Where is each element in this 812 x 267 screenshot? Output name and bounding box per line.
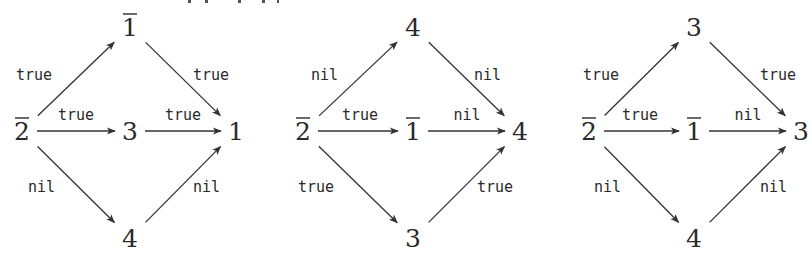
edge-label: true: [16, 66, 52, 84]
node-sink: 1: [228, 117, 244, 146]
node-src: 2: [14, 117, 30, 146]
node-src: 2: [581, 117, 597, 146]
node-mid: 1: [405, 117, 421, 146]
node-src: 2: [295, 117, 311, 146]
node-bot: 4: [122, 224, 138, 253]
node-sink: 4: [512, 117, 528, 146]
node-label: 4: [512, 117, 528, 146]
node-label: 1: [122, 13, 138, 42]
edge-label: true: [342, 106, 378, 124]
edge-label: true: [298, 178, 334, 196]
diagram-left: truetrueniltruetruenil21341: [14, 13, 244, 253]
diagram-right: truetrueniltruenilnil23143: [581, 13, 809, 253]
node-label: 1: [686, 117, 702, 146]
node-label: 3: [405, 224, 421, 253]
node-top: 4: [405, 13, 421, 42]
diagrams-layer: truetrueniltruetruenil21341niltruetrueni…: [14, 13, 809, 253]
node-bot: 3: [405, 224, 421, 253]
edge-label: nil: [193, 178, 220, 196]
edge-label: nil: [594, 178, 621, 196]
edge-label: true: [760, 66, 796, 84]
edge-label: nil: [474, 66, 501, 84]
edge-label: true: [193, 66, 229, 84]
edge-label: true: [165, 106, 201, 124]
node-top: 3: [686, 13, 702, 42]
node-bot: 4: [686, 224, 702, 253]
edge-label: true: [622, 106, 658, 124]
diagram-canvas: truetrueniltruetruenil21341niltruetrueni…: [0, 0, 812, 267]
node-mid: 1: [686, 117, 702, 146]
edge-label: nil: [453, 106, 480, 124]
node-label: 4: [122, 224, 138, 253]
edge-label: nil: [28, 178, 55, 196]
node-label: 3: [122, 117, 138, 146]
node-top: 1: [122, 13, 138, 42]
edge-label: nil: [760, 178, 787, 196]
node-label: 4: [686, 224, 702, 253]
node-label: 3: [793, 117, 809, 146]
node-label: 2: [295, 117, 311, 146]
node-label: 4: [405, 13, 421, 42]
node-label: 1: [405, 117, 421, 146]
node-mid: 3: [122, 117, 138, 146]
edge-label: nil: [734, 106, 761, 124]
cropped-text-fragment: [188, 0, 279, 3]
edge-label: true: [58, 106, 94, 124]
edge-label: true: [583, 66, 619, 84]
edge-label: true: [477, 178, 513, 196]
node-label: 3: [686, 13, 702, 42]
node-label: 1: [228, 117, 244, 146]
diagram-middle: niltruetruenilniltrue24134: [295, 13, 528, 253]
node-label: 2: [14, 117, 30, 146]
node-label: 2: [581, 117, 597, 146]
edge-label: nil: [311, 66, 338, 84]
node-sink: 3: [793, 117, 809, 146]
